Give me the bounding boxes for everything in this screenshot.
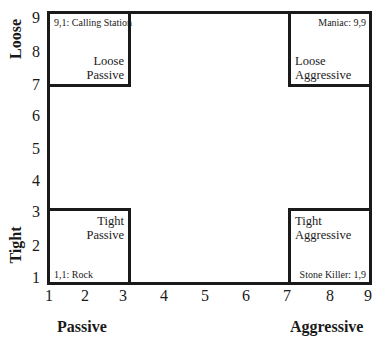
- y-tick: 8: [32, 44, 40, 60]
- corner-label-calling-station: 9,1: Calling Station: [54, 17, 132, 28]
- x-tick: 9: [364, 288, 372, 304]
- label-line: Loose: [295, 54, 351, 68]
- y-tick: 6: [32, 108, 40, 124]
- y-tick: 7: [32, 77, 40, 93]
- region-tight-aggressive: Tight Aggressive Stone Killer: 1,9: [288, 208, 372, 285]
- region-label-loose-passive: Loose Passive: [87, 54, 125, 82]
- region-tight-passive: Tight Passive 1,1: Rock: [47, 208, 131, 285]
- y-tick: 5: [32, 141, 40, 157]
- corner-label-stone-killer: Stone Killer: 1,9: [300, 269, 366, 280]
- y-axis-label-tight: Tight: [7, 222, 25, 268]
- x-tick: 5: [201, 288, 209, 304]
- x-tick: 2: [81, 288, 89, 304]
- label-line: Passive: [87, 68, 125, 82]
- y-tick: 1: [32, 270, 40, 286]
- region-label-loose-aggressive: Loose Aggressive: [295, 54, 351, 82]
- y-tick: 9: [32, 10, 40, 26]
- label-line: Tight: [87, 214, 125, 228]
- x-tick: 8: [326, 288, 334, 304]
- x-tick: 1: [45, 288, 53, 304]
- x-axis-label-aggressive: Aggressive: [290, 318, 363, 336]
- corner-label-maniac: Maniac: 9,9: [318, 17, 366, 28]
- label-line: Loose: [87, 54, 125, 68]
- x-tick: 4: [160, 288, 168, 304]
- y-tick: 3: [32, 204, 40, 220]
- corner-label-rock: 1,1: Rock: [54, 269, 93, 280]
- y-tick: 4: [32, 173, 40, 189]
- y-axis-label-loose: Loose: [7, 14, 25, 64]
- label-line: Aggressive: [295, 68, 351, 82]
- x-tick: 6: [242, 288, 250, 304]
- region-label-tight-aggressive: Tight Aggressive: [295, 214, 351, 242]
- x-axis-label-passive: Passive: [57, 318, 107, 336]
- label-line: Aggressive: [295, 228, 351, 242]
- y-tick: 2: [32, 238, 40, 254]
- region-loose-aggressive: Maniac: 9,9 Loose Aggressive: [288, 11, 372, 87]
- x-tick: 3: [119, 288, 127, 304]
- label-line: Passive: [87, 228, 125, 242]
- region-loose-passive: 9,1: Calling Station Loose Passive: [47, 11, 131, 87]
- x-tick: 7: [283, 288, 291, 304]
- region-label-tight-passive: Tight Passive: [87, 214, 125, 242]
- label-line: Tight: [295, 214, 351, 228]
